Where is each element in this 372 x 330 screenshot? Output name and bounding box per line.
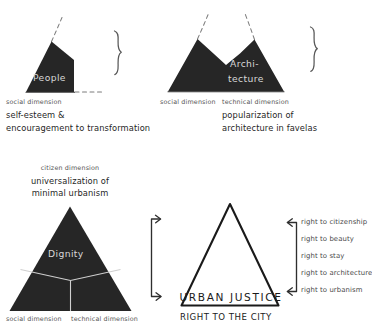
left-connector-group bbox=[152, 215, 162, 300]
urban-justice-inner-label: URBAN JUSTICE bbox=[179, 291, 282, 304]
right-to-the-city-label: RIGHT TO THE CITY bbox=[180, 312, 272, 322]
architecture-left-slope-dashed-extension bbox=[198, 14, 209, 40]
rights-list-item-urbanism: right to urbanism bbox=[301, 286, 363, 294]
dignity-social-dimension-label: social dimension bbox=[6, 316, 62, 324]
left-connector-bracket bbox=[152, 219, 161, 297]
architecture-technical-dimension-label: technical dimension bbox=[222, 99, 289, 107]
people-social-dimension-label: social dimension bbox=[6, 99, 62, 107]
right-connector-group bbox=[287, 219, 296, 295]
diagram-canvas: People social dimension self-esteem & en… bbox=[0, 0, 372, 330]
people-brace-group bbox=[115, 31, 122, 75]
architecture-shape-group bbox=[168, 14, 284, 92]
rights-list-item-stay: right to stay bbox=[301, 252, 344, 260]
architecture-caption-line-1: popularization of bbox=[222, 110, 294, 120]
people-slope-dashed-extension bbox=[52, 18, 63, 42]
rights-list-item-architecture: right to architecture bbox=[301, 269, 372, 277]
architecture-social-dimension-label: social dimension bbox=[160, 99, 216, 107]
architecture-filled-shape bbox=[168, 39, 284, 92]
architecture-brace-group bbox=[311, 27, 318, 71]
people-shape-label: People bbox=[33, 72, 66, 83]
architecture-shape-label-line-2: tecture bbox=[228, 73, 264, 84]
people-right-curly-brace-icon bbox=[115, 31, 122, 75]
rights-list-item-citizenship: right to citizenship bbox=[301, 218, 367, 226]
architecture-shape-label-line-1: Archi- bbox=[230, 58, 259, 69]
dignity-technical-dimension-label: technical dimension bbox=[71, 316, 138, 324]
right-connector-bracket bbox=[288, 223, 297, 292]
rights-list-item-beauty: right to beauty bbox=[301, 235, 354, 243]
dignity-shape-label: Dignity bbox=[48, 248, 84, 259]
architecture-right-curly-brace-icon bbox=[311, 27, 318, 71]
people-caption-line-1: self-esteem & bbox=[6, 110, 65, 120]
dignity-caption-line-1: universalization of bbox=[31, 176, 109, 186]
architecture-caption-line-2: architecture in favelas bbox=[222, 123, 317, 133]
people-caption-line-2: encouragement to transformation bbox=[6, 123, 150, 133]
people-filled-shape bbox=[26, 42, 74, 93]
dignity-citizen-dimension-label: citizen dimension bbox=[41, 165, 100, 173]
dignity-caption-line-2: minimal urbanism bbox=[32, 188, 109, 198]
architecture-right-slope-dashed-extension bbox=[245, 14, 255, 40]
